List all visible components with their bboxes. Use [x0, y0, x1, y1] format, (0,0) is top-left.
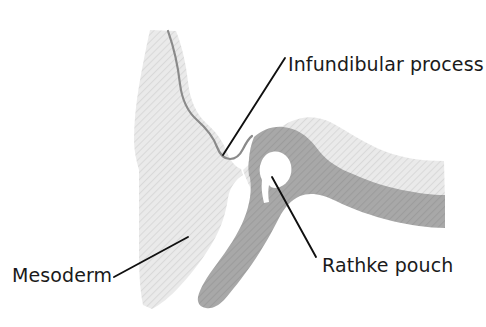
- region-oral-ectoderm: [198, 127, 445, 308]
- anatomy-diagram: Infundibular process Rathke pouch Mesode…: [0, 0, 486, 327]
- label-mesoderm: Mesoderm: [12, 264, 112, 286]
- label-rathke-pouch: Rathke pouch: [322, 254, 453, 276]
- figure-root: Infundibular process Rathke pouch Mesode…: [0, 0, 486, 327]
- label-infundibular-process: Infundibular process: [288, 53, 484, 75]
- rathke-pouch-band: [198, 127, 445, 308]
